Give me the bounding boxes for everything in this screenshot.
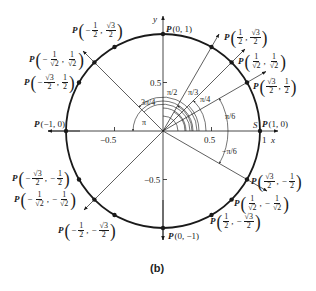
point-label-7pi4: P( 1√2,− 1√2) (234, 195, 289, 212)
point-label-0-1: P(0, 1) (166, 25, 192, 34)
point-label-m1-0: P(−1, 0) (34, 120, 65, 129)
point-label-2pi3: P(− 12, √32) (72, 22, 123, 39)
point-label-0-m1: P(0, −1) (168, 232, 199, 241)
point-label-pi3: P( 12, √32) (224, 29, 267, 46)
point-label-5pi6: P(− √32, 12) (24, 74, 75, 91)
point-label-pi4: P( 1√2, 1√2) (238, 53, 286, 70)
angle-arcs (133, 97, 228, 163)
tick-y-pos: 0.5 (150, 79, 161, 88)
ray-pi6 (163, 72, 266, 132)
y-axis-label: y (153, 15, 157, 24)
point-label-5pi3: P( 12,− √32) (210, 213, 261, 230)
tick-y-neg: −0.5 (144, 176, 160, 185)
point-label-pi6: P( √32, 12) (253, 78, 296, 95)
angle-label-pi: π (142, 118, 146, 127)
point-label-4pi3: P(− 12,− √32) (58, 222, 116, 239)
angle-label-3pi4: 3π/4 (141, 98, 155, 107)
angle-label-pi4: π/4 (200, 95, 210, 104)
point-label-11pi6: P( √32,− 12) (251, 173, 302, 190)
angle-label-neg-pi6: −π/6 (222, 147, 237, 156)
angle-label-pi6: π/6 (225, 112, 235, 121)
arc-pi4 (193, 101, 206, 131)
point-label-7pi6: P(− √32,− 12) (12, 170, 70, 187)
tick-x-pos: 0.5 (204, 136, 215, 145)
figure-caption: (b) (150, 262, 164, 274)
tick-x-neg: −0.5 (100, 136, 116, 145)
point-label-1-0: P(1, 0) (262, 120, 288, 129)
start-point-label: S (253, 121, 258, 130)
angle-label-pi3: π/3 (188, 88, 198, 97)
tick-x-one: 1 (262, 136, 267, 145)
angle-label-pi2: π/2 (167, 88, 177, 97)
unit-circle-diagram (0, 0, 316, 291)
point-label-3pi4: P(− 1√2, 1√2) (29, 51, 84, 68)
x-axis-label: x (271, 136, 275, 145)
point-label-5pi4: P(− 1√2,− 1√2) (14, 191, 76, 208)
